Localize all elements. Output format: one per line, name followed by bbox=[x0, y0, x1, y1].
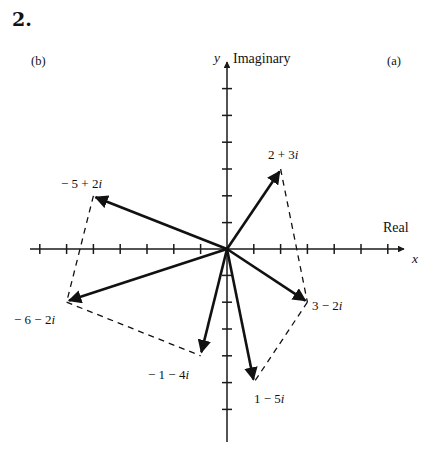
point-label-minus6-minus-2i: − 6 − 2i bbox=[14, 313, 55, 326]
vector-minus5-plus-2i bbox=[96, 197, 227, 249]
part-label-b: (b) bbox=[31, 55, 46, 68]
point-label-1-minus-5i: 1 − 5i bbox=[254, 392, 284, 405]
point-label-3-minus-2i: 3 − 2i bbox=[312, 299, 342, 312]
vector-1-minus-5i bbox=[227, 249, 253, 380]
real-axis-label: Real bbox=[383, 221, 409, 235]
point-label-2-plus-3i: 2 + 3i bbox=[268, 148, 298, 161]
imaginary-axis-label: Imaginary bbox=[233, 52, 291, 66]
point-label-minus5-plus-2i: − 5 + 2i bbox=[61, 177, 102, 190]
vector-minus1-minus-4i bbox=[201, 249, 227, 352]
point-label-minus1-minus-4i: − 1 − 4i bbox=[148, 368, 189, 381]
vector-2-plus-3i bbox=[227, 172, 280, 250]
dashed-path-a bbox=[254, 169, 308, 383]
x-axis-variable-label: x bbox=[412, 252, 418, 266]
vectors bbox=[69, 172, 305, 380]
dashed-path-b bbox=[67, 196, 201, 356]
part-label-a: (a) bbox=[387, 55, 401, 68]
vector-3-minus-2i bbox=[227, 249, 305, 301]
argand-diagram bbox=[0, 0, 438, 452]
vector-minus6-minus-2i bbox=[69, 249, 227, 301]
y-axis-variable-label: y bbox=[214, 51, 220, 65]
problem-number: 2. bbox=[12, 10, 32, 29]
